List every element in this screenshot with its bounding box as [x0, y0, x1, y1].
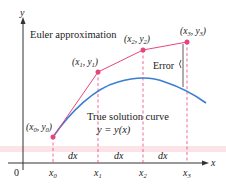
x-tick-2: x2 — [138, 167, 147, 179]
dx-label-2: dx — [114, 150, 124, 161]
x-tick-3: x3 — [182, 167, 191, 179]
point-2 — [141, 48, 146, 53]
point-3 — [185, 40, 190, 45]
point-label-0: (x0, y0) — [26, 122, 52, 133]
origin-label: 0 — [14, 167, 19, 178]
y-axis-arrow-icon — [21, 17, 26, 24]
true-curve-label: True solution curve — [87, 111, 169, 122]
point-label-3: (x3, y3) — [180, 26, 206, 37]
background-band — [0, 146, 226, 152]
point-label-2: (x2, y2) — [124, 34, 150, 45]
x-tick-0: x0 — [48, 167, 57, 179]
x-tick-1: x1 — [93, 167, 102, 179]
error-brace-icon — [180, 60, 182, 68]
x-axis-label: x — [210, 157, 216, 168]
true-curve-equation: y = y(x) — [96, 124, 131, 136]
dx-label-1: dx — [68, 150, 78, 161]
point-0 — [51, 135, 56, 140]
point-1 — [96, 70, 101, 75]
x-axis-arrow-icon — [202, 161, 209, 166]
point-label-1: (x1, y1) — [72, 57, 98, 68]
error-label: Error — [153, 60, 175, 71]
y-axis-label: y — [19, 7, 25, 18]
dx-label-3: dx — [158, 150, 168, 161]
euler-diagram: y x 0 Error Euler approximation True sol… — [0, 0, 226, 190]
euler-label: Euler approximation — [30, 29, 117, 40]
